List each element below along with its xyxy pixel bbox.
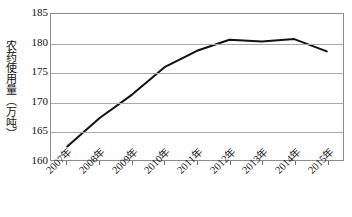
- gridline: [51, 44, 343, 45]
- y-tick-label: 170: [24, 96, 48, 107]
- x-tick: [99, 161, 100, 165]
- line-chart: 农药使用量（万吨） 160165170175180185 2007年2008年2…: [0, 0, 352, 217]
- series-polyline: [67, 39, 327, 146]
- x-tick: [66, 161, 67, 165]
- y-axis-tick-labels: 160165170175180185: [22, 0, 48, 217]
- y-tick-label: 165: [24, 125, 48, 136]
- x-tick: [197, 161, 198, 165]
- x-tick: [164, 161, 165, 165]
- y-tick-label: 185: [24, 7, 48, 18]
- gridline: [51, 103, 343, 104]
- gridline: [51, 73, 343, 74]
- x-tick: [295, 161, 296, 165]
- y-tick-label: 175: [24, 66, 48, 77]
- series-line: [51, 14, 343, 160]
- y-axis-title: 农药使用量（万吨）: [2, 14, 20, 164]
- x-tick: [262, 161, 263, 165]
- y-tick-label: 160: [24, 155, 48, 166]
- gridline: [51, 132, 343, 133]
- plot-area: [50, 13, 344, 161]
- y-tick-label: 180: [24, 37, 48, 48]
